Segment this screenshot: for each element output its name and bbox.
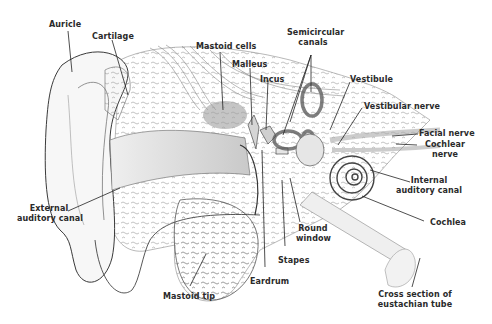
label-external-auditory-canal: External auditory canal <box>17 204 81 223</box>
label-cochlea: Cochlea <box>430 218 466 228</box>
label-facial-nerve: Facial nerve <box>419 129 475 139</box>
label-vestibular-nerve: Vestibular nerve <box>364 102 440 112</box>
label-auricle: Auricle <box>49 20 81 30</box>
label-mastoid-cells: Mastoid cells <box>196 42 256 52</box>
ear-anatomy-diagram: Auricle Cartilage Mastoid cells Malleus … <box>0 0 492 324</box>
label-internal-auditory-canal: Internal auditory canal <box>396 176 462 195</box>
label-eustachian-tube: Cross section of eustachian tube <box>370 290 460 309</box>
label-round-window: Round window <box>296 224 330 243</box>
label-incus: Incus <box>260 75 284 85</box>
label-stapes: Stapes <box>278 256 310 266</box>
label-cartilage: Cartilage <box>92 32 134 42</box>
label-mastoid-tip: Mastoid tip <box>163 292 215 302</box>
label-malleus: Malleus <box>232 60 267 70</box>
label-cochlear-nerve: Cochlear nerve <box>420 140 470 159</box>
label-eardrum: Eardrum <box>250 277 289 287</box>
label-vestibule: Vestibule <box>350 75 393 85</box>
label-semicircular-canals: Semicircular canals <box>287 28 339 47</box>
